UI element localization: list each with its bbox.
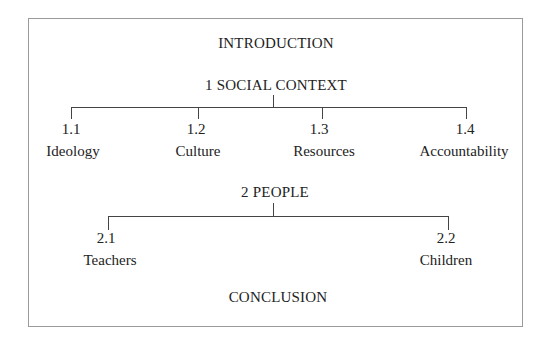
- node-1-1-number: 1.1: [62, 121, 81, 138]
- introduction-heading: INTRODUCTION: [218, 35, 334, 52]
- section-1-branch-line: [71, 107, 467, 108]
- node-1-4-label: Accountability: [419, 143, 508, 160]
- conclusion-heading: CONCLUSION: [229, 289, 328, 306]
- node-1-2-number: 1.2: [187, 121, 206, 138]
- branch-2-1: [108, 216, 109, 230]
- section-2-branch-line: [108, 216, 449, 217]
- node-2-2-label: Children: [420, 252, 473, 269]
- section-2-title: 2 PEOPLE: [241, 184, 309, 201]
- node-2-1-number: 2.1: [97, 230, 116, 247]
- branch-1-4: [466, 107, 467, 119]
- branch-1-1: [71, 107, 72, 119]
- node-1-3-number: 1.3: [310, 121, 329, 138]
- node-1-2-label: Culture: [176, 143, 221, 160]
- node-1-3-label: Resources: [293, 143, 355, 160]
- node-1-4-number: 1.4: [456, 121, 475, 138]
- node-2-2-number: 2.2: [437, 230, 456, 247]
- section-1-title: 1 SOCIAL CONTEXT: [205, 77, 347, 94]
- branch-2-2: [448, 216, 449, 230]
- diagram-frame: [28, 18, 523, 327]
- branch-1-2: [198, 107, 199, 119]
- node-1-1-label: Ideology: [46, 143, 99, 160]
- node-2-1-label: Teachers: [83, 252, 136, 269]
- branch-1-3: [322, 107, 323, 119]
- section-2-stem: [273, 203, 274, 216]
